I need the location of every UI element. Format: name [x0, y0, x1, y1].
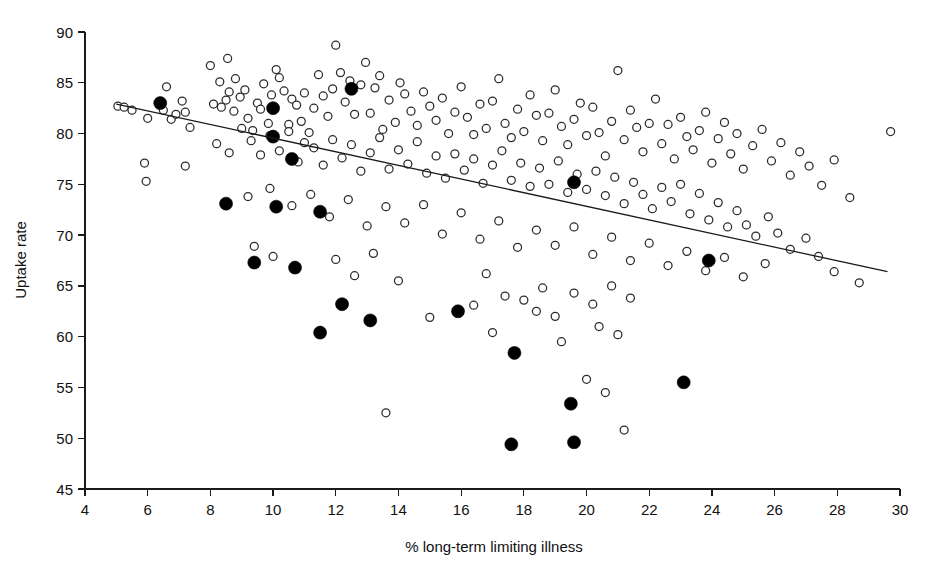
x-tick-label: 14 [390, 501, 407, 518]
data-point-open [677, 180, 685, 188]
data-point-open [645, 119, 653, 127]
data-point-open [470, 155, 478, 163]
data-point-open [630, 178, 638, 186]
data-point-open [396, 79, 404, 87]
series-open-circles [114, 41, 895, 434]
data-point-open [178, 97, 186, 105]
data-point-open [702, 108, 710, 116]
data-point-open [733, 130, 741, 138]
data-point-open [739, 165, 747, 173]
data-point-open [855, 279, 863, 287]
data-point-open [413, 138, 421, 146]
data-point-open [761, 260, 769, 268]
data-point-open [589, 250, 597, 258]
data-point-open [639, 148, 647, 156]
data-point-open [570, 289, 578, 297]
data-point-open [366, 149, 374, 157]
data-point-open [532, 111, 540, 119]
data-point-filled [267, 102, 280, 115]
data-point-open [786, 171, 794, 179]
data-point-open [489, 97, 497, 105]
data-point-open [489, 329, 497, 337]
data-point-filled [336, 298, 349, 311]
data-point-open [589, 300, 597, 308]
data-point-open [489, 161, 497, 169]
data-point-open [244, 114, 252, 122]
data-point-open [326, 213, 334, 221]
data-point-open [557, 122, 565, 130]
data-point-open [652, 95, 660, 103]
data-point-open [351, 110, 359, 118]
data-point-filled [345, 82, 358, 95]
data-point-open [658, 183, 666, 191]
data-point-open [677, 113, 685, 121]
data-point-open [648, 205, 656, 213]
data-point-open [764, 213, 772, 221]
data-point-open [457, 209, 465, 217]
data-point-open [120, 103, 128, 111]
data-point-open [482, 124, 490, 132]
data-point-open [376, 134, 384, 142]
data-point-open [830, 268, 838, 276]
x-tick-label: 30 [892, 501, 909, 518]
data-point-open [601, 389, 609, 397]
data-point-open [266, 184, 274, 192]
data-point-open [551, 86, 559, 94]
data-point-open [236, 93, 244, 101]
data-point-open [620, 136, 628, 144]
data-point-filled [248, 256, 261, 269]
data-point-open [576, 99, 584, 107]
data-point-open [362, 58, 370, 66]
data-point-open [601, 152, 609, 160]
data-point-filled [508, 346, 521, 359]
data-point-open [332, 41, 340, 49]
x-tick-label: 12 [327, 501, 344, 518]
data-point-filled [364, 314, 377, 327]
data-point-open [382, 203, 390, 211]
data-point-open [830, 156, 838, 164]
data-point-open [501, 292, 509, 300]
data-point-open [269, 252, 277, 260]
data-point-open [336, 69, 344, 77]
data-point-open [592, 167, 600, 175]
data-point-open [501, 119, 509, 127]
data-point-open [206, 62, 214, 70]
data-point-open [620, 426, 628, 434]
data-point-open [595, 323, 603, 331]
data-point-open [720, 253, 728, 261]
data-point-open [379, 125, 387, 133]
data-point-filled [677, 376, 690, 389]
data-point-open [495, 75, 503, 83]
trend-line-layer [116, 104, 887, 272]
data-point-open [724, 223, 732, 231]
data-point-open [545, 180, 553, 188]
data-point-open [307, 190, 315, 198]
data-point-open [186, 123, 194, 131]
data-point-open [601, 192, 609, 200]
x-tick-label: 10 [265, 501, 282, 518]
data-point-open [626, 294, 634, 302]
data-point-filled [154, 97, 167, 110]
data-point-open [695, 127, 703, 135]
data-point-open [507, 176, 515, 184]
data-point-open [498, 147, 506, 155]
data-point-open [520, 296, 528, 304]
data-point-open [818, 181, 826, 189]
data-point-open [583, 375, 591, 383]
data-point-open [217, 103, 225, 111]
data-point-open [382, 409, 390, 417]
y-tick-label: 80 [56, 125, 73, 142]
data-point-open [315, 71, 323, 79]
data-point-open [272, 66, 280, 74]
data-point-filled [564, 397, 577, 410]
x-axis-title: % long-term limiting illness [405, 538, 583, 555]
y-tick-label: 60 [56, 328, 73, 345]
data-point-open [181, 162, 189, 170]
data-point-open [570, 115, 578, 123]
data-point-open [438, 94, 446, 102]
data-point-open [338, 154, 346, 162]
x-tick-label: 16 [453, 501, 470, 518]
data-point-open [420, 88, 428, 96]
data-point-open [805, 162, 813, 170]
y-tick-label: 75 [56, 176, 73, 193]
